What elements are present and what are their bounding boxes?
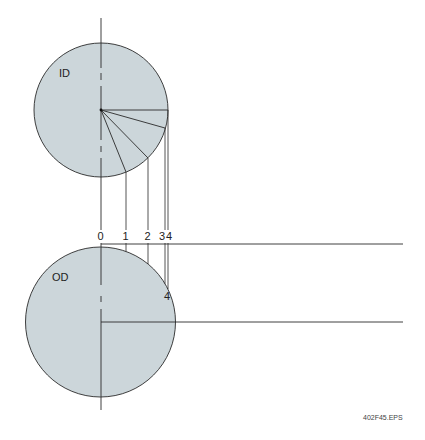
od-point-label: 4 (164, 290, 170, 302)
id-label: ID (59, 67, 70, 79)
division-label-4: 4 (166, 230, 172, 242)
division-label-0: 0 (98, 230, 104, 242)
od-label: OD (52, 271, 69, 283)
file-label: 402F45.EPS (363, 414, 403, 421)
division-label-2: 2 (145, 230, 151, 242)
division-label-3: 3 (159, 230, 165, 242)
center-point (100, 109, 103, 112)
division-label-1: 1 (123, 230, 129, 242)
id-od-projection-diagram: ID OD 0 1 2 3 4 4 402F45.EPS (0, 0, 425, 440)
